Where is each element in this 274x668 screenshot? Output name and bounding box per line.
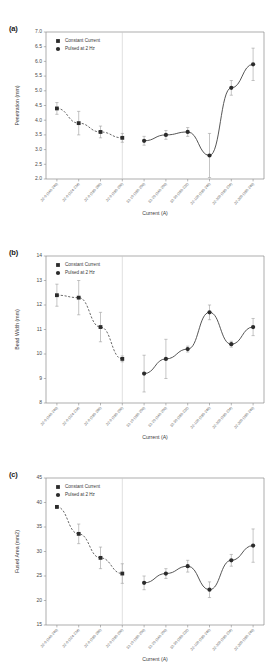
data-point-square bbox=[99, 556, 103, 560]
y-tick-label: 25 bbox=[36, 572, 42, 578]
legend-label-constant-current: Constant Current bbox=[65, 262, 101, 267]
data-point-circle bbox=[251, 544, 255, 548]
fit-curve bbox=[144, 546, 253, 590]
legend-label-pulsed: Pulsed at 2 Hz bbox=[65, 270, 96, 275]
legend-marker-constant-current bbox=[56, 485, 60, 489]
x-tick-label: 32-0 (280-280) bbox=[84, 406, 103, 426]
chart-panel-a: (a) 2.02.53.03.54.04.55.05.56.06.57.0Pen… bbox=[0, 2, 274, 224]
x-tick-label: 32-0 (280-200) bbox=[105, 182, 124, 202]
legend-label-pulsed: Pulsed at 2 Hz bbox=[65, 46, 96, 51]
fit-curve bbox=[144, 312, 253, 373]
x-tick-label: 32-0 (240-240) bbox=[40, 628, 59, 648]
data-point-square bbox=[77, 532, 81, 536]
y-tick-label: 2.5 bbox=[35, 161, 42, 167]
y-axis-title: Fused Area (mm2) bbox=[14, 530, 20, 573]
data-point-circle bbox=[142, 139, 146, 143]
data-point-circle bbox=[251, 325, 255, 329]
y-tick-label: 3.0 bbox=[35, 146, 42, 152]
y-tick-label: 3.5 bbox=[35, 131, 42, 137]
data-point-circle bbox=[229, 558, 233, 562]
data-point-circle bbox=[164, 133, 168, 137]
fit-curve bbox=[57, 108, 122, 137]
x-tick-label: 32-0 (280-200) bbox=[105, 628, 124, 648]
x-tick-label: 32-200 (280-224) bbox=[212, 628, 234, 651]
legend: Constant CurrentPulsed at 2 Hz bbox=[56, 38, 101, 51]
y-tick-label: 40 bbox=[36, 499, 42, 505]
y-tick-label: 12 bbox=[36, 301, 42, 307]
data-point-circle bbox=[186, 564, 190, 568]
data-point-circle bbox=[164, 357, 168, 361]
x-axis-title: Current (A) bbox=[142, 210, 168, 216]
data-point-circle bbox=[142, 581, 146, 585]
fit-curve bbox=[57, 295, 122, 359]
data-point-square bbox=[77, 121, 81, 125]
data-point-circle bbox=[142, 372, 146, 376]
data-point-square bbox=[55, 293, 59, 297]
data-point-square bbox=[120, 136, 124, 140]
data-point-circle bbox=[251, 62, 255, 66]
plot-area-c: 15202530354045Fused Area (mm2)32-0 (240-… bbox=[0, 448, 274, 668]
data-point-square bbox=[120, 357, 124, 361]
y-tick-label: 15 bbox=[36, 621, 42, 627]
plot-area-a: 2.02.53.03.54.04.55.05.56.06.57.0Penetra… bbox=[0, 2, 274, 224]
x-tick-label: 32-100 (280-240) bbox=[190, 182, 212, 205]
y-tick-label: 5.5 bbox=[35, 72, 42, 78]
data-point-circle bbox=[207, 310, 211, 314]
x-tick-label: 32-20 (240-200) bbox=[148, 406, 168, 428]
y-tick-label: 5.0 bbox=[35, 87, 42, 93]
x-tick-label: 32-200 (280-224) bbox=[212, 406, 234, 429]
y-tick-label: 13 bbox=[36, 277, 42, 283]
x-tick-label: 32-300 (280-240) bbox=[233, 628, 255, 651]
x-tick-label: 32-10 (280-200) bbox=[126, 182, 146, 204]
x-tick-label: 32-0 (280-200) bbox=[105, 406, 124, 426]
x-tick-label: 32-10 (280-200) bbox=[126, 406, 146, 428]
legend-marker-pulsed bbox=[56, 47, 60, 51]
y-tick-label: 9 bbox=[39, 375, 42, 381]
x-tick-label: 32-30 (280-232) bbox=[169, 182, 189, 204]
x-tick-label: 32-0 (224-224) bbox=[62, 182, 81, 202]
x-tick-label: 32-200 (280-224) bbox=[212, 182, 234, 205]
data-point-circle bbox=[229, 86, 233, 90]
data-point-circle bbox=[207, 153, 211, 157]
x-tick-label: 32-20 (240-200) bbox=[148, 628, 168, 650]
y-tick-label: 6.0 bbox=[35, 58, 42, 64]
data-point-square bbox=[99, 325, 103, 329]
x-tick-label: 32-0 (224-224) bbox=[62, 406, 81, 426]
x-tick-label: 32-10 (280-200) bbox=[126, 628, 146, 650]
y-tick-label: 30 bbox=[36, 548, 42, 554]
data-point-circle bbox=[186, 130, 190, 134]
x-tick-label: 32-0 (240-240) bbox=[40, 182, 59, 202]
y-tick-label: 45 bbox=[36, 474, 42, 480]
x-axis-title: Current (A) bbox=[142, 656, 168, 662]
data-point-circle bbox=[207, 588, 211, 592]
fit-curve bbox=[57, 507, 122, 574]
legend: Constant CurrentPulsed at 2 Hz bbox=[56, 262, 101, 275]
y-tick-label: 4.0 bbox=[35, 117, 42, 123]
legend-label-constant-current: Constant Current bbox=[65, 484, 101, 489]
y-tick-label: 8 bbox=[39, 399, 42, 405]
data-point-circle bbox=[164, 571, 168, 575]
x-tick-label: 32-300 (280-240) bbox=[233, 182, 255, 205]
fit-curve bbox=[144, 64, 253, 155]
y-tick-label: 4.5 bbox=[35, 102, 42, 108]
x-tick-label: 32-0 (240-240) bbox=[40, 406, 59, 426]
x-tick-label: 32-20 (240-200) bbox=[148, 182, 168, 204]
y-tick-label: 10 bbox=[36, 350, 42, 356]
y-tick-label: 2.0 bbox=[35, 175, 42, 181]
legend-marker-constant-current bbox=[56, 263, 60, 267]
y-tick-label: 7.0 bbox=[35, 28, 42, 34]
legend-marker-pulsed bbox=[56, 271, 60, 275]
legend-marker-constant-current bbox=[56, 39, 60, 43]
x-tick-label: 32-300 (280-240) bbox=[233, 406, 255, 429]
x-tick-label: 32-30 (280-232) bbox=[169, 628, 189, 650]
y-tick-label: 6.5 bbox=[35, 43, 42, 49]
legend-marker-pulsed bbox=[56, 493, 60, 497]
y-axis-title: Bead Width (mm) bbox=[14, 309, 20, 350]
data-point-square bbox=[120, 572, 124, 576]
chart-panel-c: (c) 15202530354045Fused Area (mm2)32-0 (… bbox=[0, 448, 274, 668]
y-axis-title: Penetration (mm) bbox=[14, 85, 20, 125]
legend-label-constant-current: Constant Current bbox=[65, 38, 101, 43]
y-tick-label: 35 bbox=[36, 523, 42, 529]
data-point-circle bbox=[229, 342, 233, 346]
legend-label-pulsed: Pulsed at 2 Hz bbox=[65, 492, 96, 497]
